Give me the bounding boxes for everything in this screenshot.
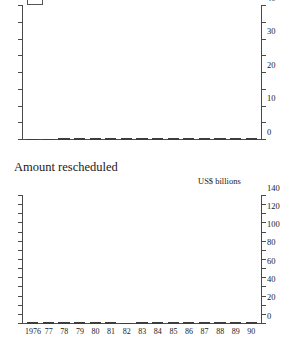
y-tick-label: 80 [267, 238, 276, 247]
bar-column [197, 6, 213, 140]
y-tick-label: 20 [267, 60, 276, 69]
y-tick-label: 40 [267, 275, 276, 284]
stacked-bar [105, 138, 116, 140]
x-tick-label: 86 [181, 327, 197, 336]
bar-column [119, 6, 135, 140]
bar-segment-lower [183, 139, 194, 140]
stacked-bar [74, 322, 85, 324]
chart-lower-x-tick-labels: 19767778798081828384858687888990 [22, 327, 262, 336]
stacked-bar [230, 138, 241, 140]
bar-column [56, 196, 72, 324]
bar-segment-lower [214, 323, 225, 324]
chart-lower-plot-area [22, 196, 262, 324]
y-tick-label: 100 [267, 220, 280, 229]
bar-segment-lower [58, 323, 69, 324]
y-tick-label: 60 [267, 256, 276, 265]
y-tick-label: 10 [267, 94, 276, 103]
stacked-bar [27, 139, 38, 140]
bar-column [228, 6, 244, 140]
x-tick-label: 77 [41, 327, 57, 336]
stacked-bar [58, 322, 69, 324]
x-tick-label: 78 [57, 327, 73, 336]
bar-column [212, 196, 228, 324]
bar-column [197, 196, 213, 324]
bar-column [181, 196, 197, 324]
stacked-bar [199, 322, 210, 324]
bar-column [165, 196, 181, 324]
stacked-bar [121, 323, 132, 324]
stacked-bar [199, 138, 210, 140]
stacked-bar [105, 322, 116, 324]
chart-lower [22, 196, 262, 324]
stacked-bar [136, 138, 147, 140]
chart-lower-unit-label: US$ billions [198, 176, 241, 186]
bar-segment-lower [90, 139, 101, 140]
bar-segment-lower [230, 139, 241, 140]
bar-column [72, 196, 88, 324]
stacked-bar [246, 138, 257, 140]
bar-column [87, 196, 103, 324]
chart-upper-y-tick-labels: 010203040 [267, 6, 301, 140]
y-tick-label: 30 [267, 27, 276, 36]
bar-column [119, 196, 135, 324]
bar-column [103, 6, 119, 140]
bar-segment-lower [43, 323, 54, 324]
bar-column [243, 6, 259, 140]
chart-lower-bars [22, 196, 262, 324]
bar-segment-lower [121, 139, 132, 140]
bar-segment-lower [74, 323, 85, 324]
bar-segment-lower [246, 323, 257, 324]
stacked-bar [230, 322, 241, 324]
bar-segment-lower [152, 323, 163, 324]
bar-segment-lower [105, 139, 116, 140]
bar-segment-lower [27, 323, 38, 324]
stacked-bar [152, 138, 163, 140]
bar-column [25, 6, 41, 140]
bar-segment-lower [199, 139, 210, 140]
bar-segment-lower [246, 139, 257, 140]
bar-column [181, 6, 197, 140]
bar-segment-lower [136, 323, 147, 324]
x-tick-label: 82 [119, 327, 135, 336]
stacked-bar [58, 138, 69, 140]
stacked-bar [168, 138, 179, 140]
stacked-bar [74, 138, 85, 140]
x-tick-label: 84 [150, 327, 166, 336]
stacked-bar [183, 138, 194, 140]
legend-swatch-clipped [27, 0, 43, 5]
x-tick-label: 1976 [25, 327, 41, 336]
bar-segment-lower [90, 323, 101, 324]
bar-segment-lower [74, 139, 85, 140]
bar-segment-lower [152, 139, 163, 140]
stacked-bar [90, 322, 101, 324]
x-tick-label: 90 [244, 327, 260, 336]
bar-column [41, 6, 57, 140]
x-tick-label: 87 [197, 327, 213, 336]
x-tick-label: 81 [103, 327, 119, 336]
stacked-bar [136, 322, 147, 324]
stacked-bar [214, 138, 225, 140]
bar-segment-lower [58, 139, 69, 140]
bar-column [25, 196, 41, 324]
stacked-bar [43, 139, 54, 140]
x-tick-label: 85 [166, 327, 182, 336]
bar-segment-lower [136, 139, 147, 140]
stacked-bar [246, 322, 257, 324]
bar-column [41, 196, 57, 324]
bar-column [150, 6, 166, 140]
bar-column [56, 6, 72, 140]
stacked-bar [168, 322, 179, 324]
chart-upper-bars [22, 6, 262, 140]
y-tick-label: 0 [267, 127, 271, 136]
bar-column [72, 6, 88, 140]
bar-column [103, 196, 119, 324]
bar-column [212, 6, 228, 140]
stacked-bar [90, 138, 101, 140]
figure-page: 010203040 Amount rescheduled US$ billion… [0, 0, 304, 355]
bar-column [87, 6, 103, 140]
bar-segment-lower [168, 139, 179, 140]
bar-segment-lower [199, 323, 210, 324]
bar-segment-upper [43, 139, 54, 140]
chart-upper [22, 6, 262, 140]
bar-column [150, 196, 166, 324]
